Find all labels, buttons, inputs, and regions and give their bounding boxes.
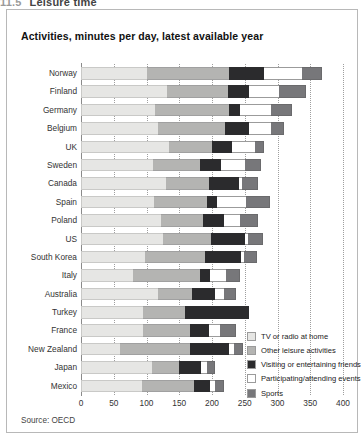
bar-segment — [81, 324, 143, 337]
bar-row — [81, 156, 343, 174]
bar-segment — [185, 306, 249, 319]
bar-segment — [245, 159, 261, 172]
bar-row — [81, 193, 343, 211]
legend-item[interactable]: Sports — [247, 387, 359, 400]
stacked-bar[interactable] — [81, 196, 270, 209]
crop-header-text: Leisure time — [30, 0, 97, 8]
y-axis-label: Mexico — [11, 377, 77, 395]
bar-segment — [192, 288, 215, 301]
stacked-bar[interactable] — [81, 324, 236, 337]
source-note: Source: OECD — [21, 416, 75, 425]
stacked-bar[interactable] — [81, 177, 258, 190]
x-axis-tick: 0 — [79, 398, 84, 408]
stacked-bar[interactable] — [81, 361, 215, 374]
legend-item[interactable]: Participating/attending events — [247, 373, 359, 386]
bar-segment — [226, 269, 240, 282]
x-axis-tick: 150 — [172, 398, 186, 408]
legend-label: TV or radio at home — [261, 332, 328, 341]
bar-row — [81, 248, 343, 266]
bar-segment — [142, 380, 194, 393]
legend-item[interactable]: Visiting or entertaining friends — [247, 358, 359, 371]
bar-segment — [200, 269, 210, 282]
stacked-bar[interactable] — [81, 288, 236, 301]
bar-segment — [81, 104, 155, 117]
y-axis-label: Sweden — [11, 156, 77, 174]
bar-segment — [240, 104, 271, 117]
bar-segment — [81, 251, 145, 264]
y-axis-label: Italy — [11, 266, 77, 284]
y-axis-label: Australia — [11, 285, 77, 303]
stacked-bar[interactable] — [81, 67, 322, 80]
bar-segment — [224, 214, 240, 227]
stacked-bar[interactable] — [81, 269, 240, 282]
bar-segment — [143, 324, 190, 337]
bar-segment — [242, 177, 258, 190]
stacked-bar[interactable] — [81, 251, 257, 264]
bar-segment — [255, 141, 264, 154]
bar-row — [81, 64, 343, 82]
bar-segment — [212, 141, 232, 154]
stacked-bar[interactable] — [81, 233, 263, 246]
stacked-bar[interactable] — [81, 159, 261, 172]
bar-segment — [169, 141, 212, 154]
y-axis-label: Norway — [11, 64, 77, 82]
y-axis-label: Poland — [11, 211, 77, 229]
bar-segment — [81, 361, 152, 374]
bar-segment — [210, 269, 226, 282]
stacked-bar[interactable] — [81, 380, 224, 393]
y-axis-label: Turkey — [11, 303, 77, 321]
bar-segment — [81, 288, 158, 301]
bar-segment — [249, 85, 278, 98]
chart-legend: TV or radio at homeOther leisure activit… — [247, 330, 359, 401]
x-axis-tick: 50 — [109, 398, 118, 408]
bar-segment — [167, 85, 228, 98]
bar-row — [81, 138, 343, 156]
stacked-bar[interactable] — [81, 85, 306, 98]
legend-label: Visiting or entertaining friends — [261, 360, 361, 369]
bar-segment — [249, 122, 271, 135]
bar-segment — [154, 196, 207, 209]
bar-segment — [244, 251, 257, 264]
stacked-bar[interactable] — [81, 343, 243, 356]
legend-label: Sports — [261, 389, 283, 398]
bar-segment — [81, 141, 169, 154]
stacked-bar[interactable] — [81, 122, 284, 135]
bar-segment — [224, 288, 236, 301]
chart-title: Activities, minutes per day, latest avai… — [21, 30, 263, 42]
bar-segment — [234, 343, 244, 356]
bar-segment — [81, 214, 161, 227]
bar-segment — [220, 324, 235, 337]
bar-segment — [217, 196, 246, 209]
bar-segment — [232, 141, 254, 154]
legend-swatch-icon — [247, 360, 256, 369]
y-axis-label: Spain — [11, 193, 77, 211]
stacked-bar[interactable] — [81, 141, 264, 154]
bar-row — [81, 230, 343, 248]
y-axis-label: Japan — [11, 358, 77, 376]
page-crop-header: 11.5Leisure time — [0, 0, 364, 8]
stacked-bar[interactable] — [81, 214, 258, 227]
bar-segment — [81, 177, 166, 190]
bar-segment — [207, 196, 217, 209]
chart-panel: Activities, minutes per day, latest avai… — [6, 9, 358, 433]
legend-item[interactable]: Other leisure activities — [247, 344, 359, 357]
bar-segment — [271, 104, 292, 117]
bar-segment — [211, 233, 245, 246]
bar-segment — [81, 67, 147, 80]
y-axis-label: France — [11, 321, 77, 339]
bar-segment — [194, 380, 210, 393]
stacked-bar[interactable] — [81, 104, 292, 117]
legend-item[interactable]: TV or radio at home — [247, 330, 359, 343]
bar-segment — [207, 361, 215, 374]
bar-segment — [81, 233, 163, 246]
bar-row — [81, 101, 343, 119]
bar-segment — [209, 177, 238, 190]
y-axis-label: Germany — [11, 101, 77, 119]
y-axis-label: US — [11, 230, 77, 248]
bar-segment — [155, 104, 229, 117]
bar-segment — [203, 214, 224, 227]
bar-row — [81, 266, 343, 284]
stacked-bar[interactable] — [81, 306, 249, 319]
crop-header-number: 11.5 — [0, 0, 22, 8]
bar-segment — [143, 306, 185, 319]
